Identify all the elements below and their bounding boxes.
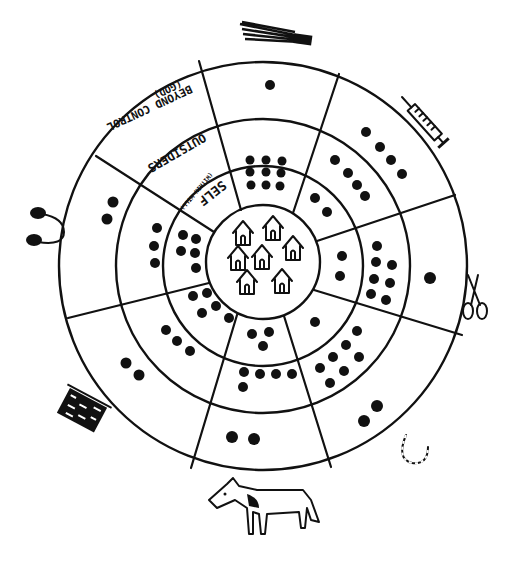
horse-icon — [209, 478, 319, 534]
stethoscope-icon — [26, 207, 64, 246]
house-icon — [263, 216, 283, 240]
sector-bottom-dots — [226, 327, 297, 445]
house-icon — [233, 221, 253, 245]
house-icon — [272, 269, 292, 293]
broom-icon — [240, 22, 312, 46]
label-outsiders: OUTSIDERS — [145, 130, 208, 175]
horseshoe-icon — [402, 435, 428, 463]
house-icon — [283, 236, 303, 260]
sector-top-dots — [246, 80, 287, 191]
sector-top-right-dots — [310, 127, 407, 217]
sector-bottom-right-dots — [310, 317, 383, 427]
house-icon — [237, 270, 257, 294]
house-icon — [252, 245, 272, 269]
diagram-canvas: BEYOND CONTROL (GOD) OUTSIDERS SELF (WIT… — [0, 0, 517, 561]
sector-right-dots — [335, 241, 436, 305]
center-houses — [228, 216, 303, 294]
house-icon — [228, 246, 248, 270]
